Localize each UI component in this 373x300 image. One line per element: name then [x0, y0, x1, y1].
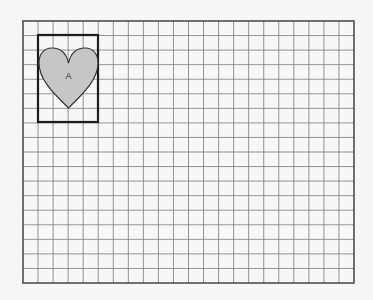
heart-label: A [65, 71, 71, 81]
grid-diagram: A [0, 0, 373, 300]
